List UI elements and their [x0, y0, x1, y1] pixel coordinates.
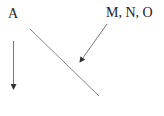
diagram-canvas: [0, 0, 164, 116]
pointer-arrow: [80, 24, 107, 62]
diagonal-line: [30, 29, 99, 96]
